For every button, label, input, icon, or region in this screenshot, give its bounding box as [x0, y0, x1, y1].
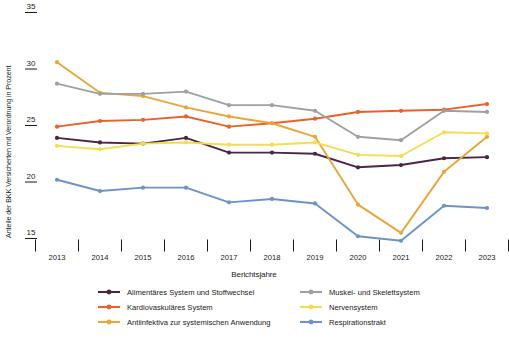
- x-tick-label: 2018: [264, 253, 281, 262]
- series-data-point: [313, 135, 317, 139]
- series-data-point: [98, 147, 102, 151]
- series-data-point: [356, 234, 360, 238]
- series-data-point: [356, 203, 360, 207]
- series-data-point: [313, 117, 317, 121]
- series-data-point: [227, 103, 231, 107]
- x-axis-title: Berichtsjahre: [231, 270, 277, 279]
- legend-item-label: Kardiovaskuläres System: [127, 303, 213, 312]
- series-data-point: [55, 144, 59, 148]
- series-data-point: [98, 92, 102, 96]
- series-data-point: [442, 170, 446, 174]
- x-tick-label: 2023: [479, 253, 496, 262]
- series-data-point: [55, 60, 59, 64]
- y-tick-label: 15: [27, 228, 36, 237]
- chart-series: [55, 82, 489, 143]
- series-data-point: [270, 197, 274, 201]
- series-data-point: [442, 156, 446, 160]
- series-data-point: [270, 151, 274, 155]
- series-data-point: [184, 186, 188, 190]
- legend-item-label: Muskel- und Skelettsystem: [329, 288, 420, 297]
- series-data-point: [356, 135, 360, 139]
- series-line: [57, 180, 487, 241]
- series-data-point: [356, 165, 360, 169]
- series-data-point: [485, 110, 489, 114]
- legend-swatch-marker: [107, 320, 112, 325]
- series-data-point: [399, 154, 403, 158]
- series-data-point: [485, 206, 489, 210]
- legend-item[interactable]: Kardiovaskuläres System: [98, 303, 213, 312]
- series-data-point: [313, 201, 317, 205]
- legend-item[interactable]: Muskel- und Skelettsystem: [300, 288, 420, 297]
- series-data-point: [184, 140, 188, 144]
- series-line: [57, 62, 487, 233]
- series-data-point: [442, 109, 446, 113]
- legend-item[interactable]: Alimentäres System und Stoffwechsel: [98, 288, 255, 297]
- series-data-point: [270, 103, 274, 107]
- x-tick-label: 2017: [221, 253, 238, 262]
- series-data-point: [141, 118, 145, 122]
- legend-item[interactable]: Nervensystem: [300, 303, 378, 312]
- legend-item-label: Alimentäres System und Stoffwechsel: [127, 288, 255, 297]
- legend-swatch-marker: [107, 305, 112, 310]
- series-data-point: [55, 125, 59, 129]
- chart-series: [55, 178, 489, 243]
- x-tick-label: 2019: [307, 253, 324, 262]
- series-data-point: [227, 143, 231, 147]
- series-data-point: [399, 109, 403, 113]
- x-tick-label: 2021: [393, 253, 410, 262]
- series-data-point: [399, 163, 403, 167]
- series-data-point: [184, 114, 188, 118]
- y-axis-title: Anteile der BKK Versicherten mit Verordn…: [4, 66, 13, 238]
- series-data-point: [399, 231, 403, 235]
- y-tick-label: 25: [27, 115, 36, 124]
- y-axis: 1520253035: [25, 2, 37, 239]
- chart-legend: Alimentäres System und StoffwechselMuske…: [98, 288, 420, 327]
- series-data-point: [356, 110, 360, 114]
- series-data-point: [141, 92, 145, 96]
- legend-item[interactable]: Antiinfektiva zur systemischen Anwendung: [98, 318, 271, 327]
- series-data-point: [227, 200, 231, 204]
- series-layer: [55, 60, 489, 243]
- x-tick-label: 2020: [350, 253, 367, 262]
- x-tick-label: 2013: [49, 253, 66, 262]
- x-tick-label: 2016: [178, 253, 195, 262]
- series-data-point: [184, 105, 188, 109]
- series-data-point: [55, 136, 59, 140]
- series-data-point: [184, 90, 188, 94]
- series-data-point: [141, 186, 145, 190]
- series-data-point: [55, 178, 59, 182]
- x-axis: 2013201420152016201720182019202020212022…: [36, 240, 509, 262]
- y-tick-label: 30: [27, 59, 36, 68]
- series-data-point: [98, 189, 102, 193]
- series-data-point: [227, 151, 231, 155]
- series-data-point: [270, 121, 274, 125]
- series-data-point: [98, 140, 102, 144]
- legend-item[interactable]: Respirationstrakt: [300, 318, 387, 327]
- series-data-point: [485, 131, 489, 135]
- x-tick-label: 2014: [92, 253, 109, 262]
- chart-series: [55, 136, 489, 170]
- y-tick-label: 20: [27, 172, 36, 181]
- legend-swatch-marker: [309, 290, 314, 295]
- y-tick-label: 35: [27, 2, 36, 11]
- x-tick-label: 2015: [135, 253, 152, 262]
- series-data-point: [313, 140, 317, 144]
- series-data-point: [313, 152, 317, 156]
- series-data-point: [399, 239, 403, 243]
- series-data-point: [141, 141, 145, 145]
- series-data-point: [98, 119, 102, 123]
- line-chart: 1520253035 20132014201520162017201820192…: [0, 0, 509, 338]
- legend-item-label: Nervensystem: [329, 303, 378, 312]
- series-data-point: [485, 102, 489, 106]
- series-data-point: [184, 136, 188, 140]
- legend-swatch-marker: [309, 305, 314, 310]
- series-data-point: [55, 82, 59, 86]
- series-line: [57, 84, 487, 141]
- series-data-point: [356, 153, 360, 157]
- legend-swatch-marker: [309, 320, 314, 325]
- series-data-point: [442, 130, 446, 134]
- series-data-point: [485, 155, 489, 159]
- series-data-point: [313, 109, 317, 113]
- series-data-point: [399, 138, 403, 142]
- legend-item-label: Respirationstrakt: [329, 318, 387, 327]
